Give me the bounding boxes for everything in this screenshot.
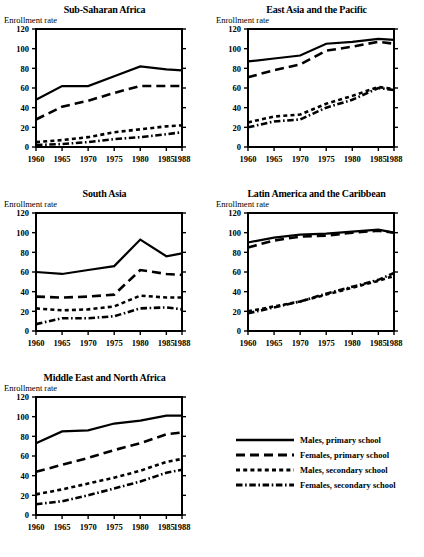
x-tick-label: 1985 (370, 154, 387, 164)
y-tick-label: 40 (233, 287, 242, 297)
x-tick-label: 1980 (132, 338, 149, 348)
panel-title: Sub-Saharan Africa (2, 4, 207, 15)
panel-title: East Asia and the Pacific (214, 4, 419, 15)
y-tick-label: 100 (16, 412, 29, 422)
series-line-dashed (36, 432, 182, 471)
y-tick-label: 120 (228, 209, 241, 218)
y-tick-label: 20 (21, 307, 30, 317)
series-line-dotted (248, 276, 394, 311)
x-tick-label: 1988 (386, 338, 403, 348)
x-tick-label: 1960 (240, 338, 257, 348)
y-tick-label: 60 (21, 83, 30, 93)
chart-panel-3: South AsiaEnrollment rate020406080100120… (2, 188, 207, 357)
x-tick-label: 1965 (54, 338, 71, 348)
y-tick-label: 0 (237, 326, 241, 336)
x-tick-label: 1960 (28, 338, 45, 348)
legend-label: Females, secondary school (300, 480, 396, 490)
y-axis-label: Enrollment rate (4, 383, 207, 393)
y-tick-label: 60 (21, 267, 30, 277)
y-tick-label: 120 (228, 25, 241, 34)
plot-area: 0204060801001201960196519701975198019851… (214, 209, 419, 357)
plot-area: 0204060801001201960196519701975198019851… (2, 209, 207, 357)
y-tick-label: 60 (21, 451, 30, 461)
y-tick-label: 120 (16, 393, 29, 402)
y-tick-label: 80 (21, 64, 30, 74)
plot-frame (36, 397, 182, 515)
panel-title: South Asia (2, 188, 207, 199)
x-tick-label: 1988 (174, 338, 191, 348)
x-tick-label: 1965 (266, 154, 283, 164)
x-tick-label: 1975 (318, 154, 335, 164)
chart-panel-1: Sub-Saharan AfricaEnrollment rate0204060… (2, 4, 207, 173)
y-tick-label: 80 (233, 64, 242, 74)
series-line-dotted (248, 87, 394, 122)
x-tick-label: 1980 (132, 522, 149, 532)
y-axis-label: Enrollment rate (216, 199, 419, 209)
legend-item: Females, primary school (236, 447, 396, 462)
x-tick-label: 1970 (80, 154, 97, 164)
x-tick-label: 1975 (106, 154, 123, 164)
legend-item: Females, secondary school (236, 477, 396, 492)
y-tick-label: 100 (228, 228, 241, 238)
x-tick-label: 1985 (370, 338, 387, 348)
y-tick-label: 120 (16, 25, 29, 34)
y-tick-label: 20 (21, 123, 30, 133)
y-tick-label: 60 (233, 83, 242, 93)
legend-item: Males, primary school (236, 432, 396, 447)
y-tick-label: 20 (21, 491, 30, 501)
y-tick-label: 80 (233, 248, 242, 258)
y-tick-label: 0 (25, 510, 29, 520)
x-tick-label: 1960 (28, 522, 45, 532)
y-tick-label: 100 (16, 44, 29, 54)
y-tick-label: 80 (21, 248, 30, 258)
x-tick-label: 1970 (80, 338, 97, 348)
y-axis-label: Enrollment rate (4, 199, 207, 209)
x-tick-label: 1960 (28, 154, 45, 164)
x-tick-label: 1985 (158, 154, 175, 164)
chart-legend: Males, primary schoolFemales, primary sc… (236, 432, 396, 492)
plot-area: 0204060801001201960196519701975198019851… (2, 25, 207, 173)
x-tick-label: 1960 (240, 154, 257, 164)
x-tick-label: 1980 (132, 154, 149, 164)
series-line-dotted (36, 459, 182, 494)
legend-swatch-dashed (236, 450, 294, 460)
chart-panel-5: Middle East and North AfricaEnrollment r… (2, 372, 207, 541)
legend-swatch-dashdot (236, 480, 294, 490)
y-tick-label: 20 (233, 307, 242, 317)
x-tick-label: 1975 (106, 338, 123, 348)
x-tick-label: 1988 (386, 154, 403, 164)
series-line-dashed (36, 86, 182, 119)
y-tick-label: 0 (25, 142, 29, 152)
y-tick-label: 40 (21, 103, 30, 113)
x-tick-label: 1965 (54, 154, 71, 164)
y-tick-label: 0 (25, 326, 29, 336)
x-tick-label: 1970 (80, 522, 97, 532)
series-line-solid (36, 240, 182, 274)
x-tick-label: 1975 (106, 522, 123, 532)
y-axis-label: Enrollment rate (216, 15, 419, 25)
legend-label: Females, primary school (300, 450, 389, 460)
y-tick-label: 40 (21, 287, 30, 297)
series-line-dashdot (36, 470, 182, 504)
plot-area: 0204060801001201960196519701975198019851… (214, 25, 419, 173)
x-tick-label: 1965 (54, 522, 71, 532)
y-tick-label: 80 (21, 432, 30, 442)
x-tick-label: 1988 (174, 522, 191, 532)
plot-area: 0204060801001201960196519701975198019851… (2, 393, 207, 541)
legend-swatch-dotted (236, 465, 294, 475)
y-tick-label: 40 (21, 471, 30, 481)
x-tick-label: 1970 (292, 338, 309, 348)
legend-label: Males, primary school (300, 435, 381, 445)
legend-swatch-solid (236, 435, 294, 445)
y-tick-label: 60 (233, 267, 242, 277)
series-line-dashdot (248, 273, 394, 313)
x-tick-label: 1980 (344, 154, 361, 164)
panel-title: Latin America and the Caribbean (214, 188, 419, 199)
y-tick-label: 0 (237, 142, 241, 152)
panel-title: Middle East and North Africa (2, 372, 207, 383)
y-axis-label: Enrollment rate (4, 15, 207, 25)
x-tick-label: 1988 (174, 154, 191, 164)
x-tick-label: 1985 (158, 522, 175, 532)
series-line-dashdot (248, 88, 394, 127)
chart-panel-4: Latin America and the CaribbeanEnrollmen… (214, 188, 419, 357)
